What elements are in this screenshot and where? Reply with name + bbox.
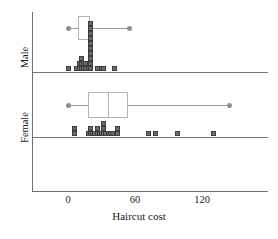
whisker-endpoint-dot [66, 103, 71, 108]
dotplot-square [112, 66, 117, 71]
female-dotplot-baseline [33, 137, 268, 138]
dotplot-square [88, 26, 93, 31]
x-tick-label: 120 [187, 194, 217, 206]
whisker-endpoint-dot [227, 103, 232, 108]
dotplot-square [88, 66, 93, 71]
dotplot-square [175, 131, 180, 136]
dotplot-square [115, 126, 120, 131]
dotplot-square [101, 121, 106, 126]
dotplot-square [211, 131, 216, 136]
x-axis-line [32, 191, 268, 192]
whisker-endpoint-dot [66, 26, 71, 31]
x-tick-label: 0 [53, 194, 83, 206]
y-axis-label-male: Male [19, 30, 30, 86]
dotplot-square [88, 51, 93, 56]
whisker-endpoint-dot [127, 26, 132, 31]
boxplot-dotplot-figure: Male Female 060120 Haircut cost [0, 0, 278, 239]
boxplot-median-line [108, 92, 109, 118]
y-axis-label-female: Female [19, 95, 30, 161]
dotplot-square [146, 131, 151, 136]
dotplot-square [72, 131, 77, 136]
dotplot-square [88, 31, 93, 36]
dotplot-square [101, 66, 106, 71]
dotplot-square [66, 66, 71, 71]
y-axis-line [32, 12, 33, 192]
x-axis-title: Haircut cost [0, 210, 278, 222]
dotplot-square [88, 36, 93, 41]
dotplot-square [88, 41, 93, 46]
dotplot-square [153, 131, 158, 136]
dotplot-square [88, 21, 93, 26]
x-tick-label: 60 [120, 194, 150, 206]
dotplot-square [88, 46, 93, 51]
dotplot-square [88, 61, 93, 66]
dotplot-square [88, 56, 93, 61]
dotplot-square [115, 131, 120, 136]
dotplot-square [72, 126, 77, 131]
male-dotplot-baseline [33, 72, 268, 73]
